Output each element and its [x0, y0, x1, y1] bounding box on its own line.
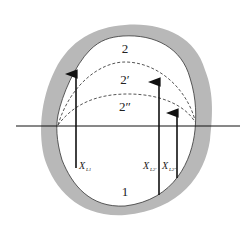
svg-text:L2″: L2″	[168, 167, 177, 172]
label-region-1: 1	[122, 184, 129, 199]
diagram: 2 2′ 2″ 1 X L1 X L2′ X L2″	[0, 0, 250, 237]
label-region-2-double-prime: 2″	[119, 99, 131, 114]
label-region-2: 2	[122, 41, 129, 56]
svg-text:X: X	[161, 160, 169, 171]
svg-text:X: X	[78, 160, 86, 171]
svg-text:L2′: L2′	[149, 167, 157, 172]
svg-text:X: X	[142, 160, 150, 171]
svg-text:L1: L1	[85, 167, 91, 172]
label-region-2-prime: 2′	[120, 72, 130, 87]
